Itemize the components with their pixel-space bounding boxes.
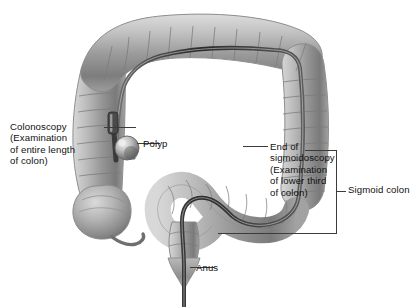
- label-colonoscopy: Colonoscopy (Examination of entire lengt…: [10, 121, 75, 167]
- label-endsig-line5: of colon): [270, 187, 308, 198]
- label-endsig-line2: sigmoidoscopy: [270, 152, 335, 163]
- label-endsig-line3: (Examination: [270, 164, 327, 175]
- label-sigmoid-colon: Sigmoid colon: [348, 184, 410, 195]
- label-anus: Anus: [196, 262, 218, 273]
- colon-endoscopy-figure: Colonoscopy (Examination of entire lengt…: [0, 0, 420, 307]
- polyp-highlight: [118, 139, 125, 146]
- polyp-shadow: [124, 146, 138, 160]
- cecum: [73, 185, 131, 239]
- label-colonoscopy-line4: of colon): [10, 155, 48, 166]
- label-endsig-line4: of lower third: [270, 175, 326, 186]
- label-colonoscopy-line1: Colonoscopy: [10, 121, 67, 132]
- endoscope-tip-head: [108, 112, 118, 134]
- polyp-group: [115, 136, 139, 160]
- label-polyp: Polyp: [143, 138, 168, 149]
- label-colonoscopy-line2: (Examination: [10, 132, 67, 143]
- label-end-sigmoidoscopy: End of sigmoidoscopy (Examination of low…: [270, 141, 335, 198]
- label-colonoscopy-line3: of entire length: [10, 144, 75, 155]
- endoscope-tip-highlight: [110, 114, 112, 132]
- label-endsig-line1: End of: [270, 141, 298, 152]
